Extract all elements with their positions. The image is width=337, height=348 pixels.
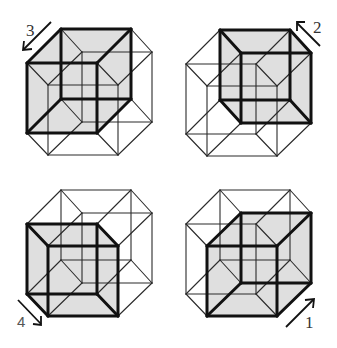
tesseract-diagram: 3 2 4 1 xyxy=(0,0,337,348)
panel-bottom-right-tesseract xyxy=(186,190,311,316)
step-2-label: 2 xyxy=(313,18,322,37)
step-1-label: 1 xyxy=(305,313,314,332)
panel-bottom-left-tesseract xyxy=(27,190,152,316)
panel-top-right-tesseract xyxy=(186,30,311,156)
step-3-label: 3 xyxy=(26,21,35,40)
panel-top-left-tesseract xyxy=(27,29,152,155)
step-4-label: 4 xyxy=(17,313,25,330)
